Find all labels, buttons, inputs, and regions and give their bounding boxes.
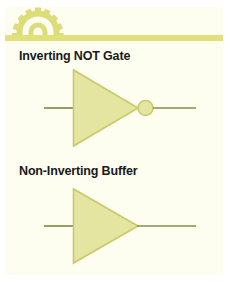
not-gate-symbol [5,62,223,158]
not-gate-inversion-bubble [138,101,153,116]
header-band [5,7,223,42]
buffer-gate-symbol [5,180,223,272]
top-margin-strip [5,0,223,7]
section-title-inverting-not-gate: Inverting NOT Gate [19,49,130,63]
logic-gate-figure: Inverting NOT Gate Non-Inverting Buffer [0,0,233,282]
header-rule [5,35,223,41]
section-title-non-inverting-buffer: Non-Inverting Buffer [19,164,138,178]
figure-card: Inverting NOT Gate Non-Inverting Buffer [5,0,223,275]
not-gate-triangle [74,70,139,146]
buffer-triangle [74,189,139,263]
